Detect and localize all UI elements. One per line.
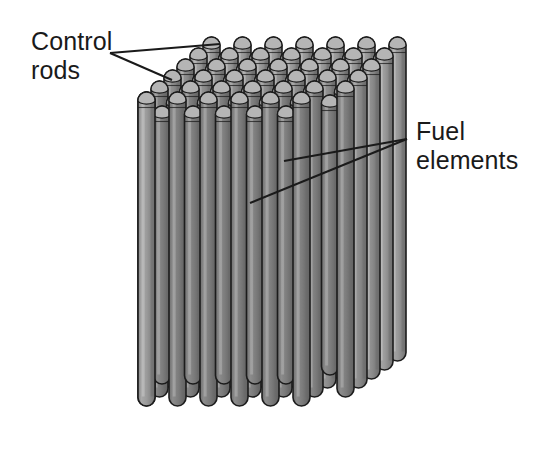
label-control-rods: Control rods: [31, 27, 112, 85]
label-fuel-elements: Fuel elements: [416, 117, 518, 175]
fuel-rod: [154, 106, 171, 384]
fuel-rod: [293, 92, 310, 406]
fuel-rod: [337, 81, 354, 397]
fuel-rod: [231, 92, 248, 406]
fuel-rod: [138, 92, 155, 406]
fuel-rod: [322, 95, 339, 375]
fuel-rod: [216, 106, 233, 384]
rod-group: [138, 37, 406, 406]
fuel-rod: [247, 106, 264, 384]
fuel-rod: [200, 92, 217, 406]
reactor-core-figure: Control rods Fuel elements: [0, 0, 536, 460]
fuel-rod: [262, 92, 279, 406]
fuel-rod: [185, 106, 202, 384]
fuel-rod: [169, 92, 186, 406]
fuel-rod: [278, 106, 295, 384]
